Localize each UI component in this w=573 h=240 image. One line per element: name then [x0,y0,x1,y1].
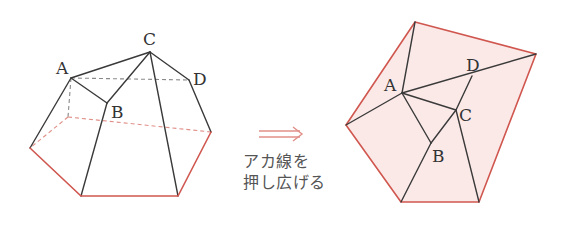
hidden-edge-a-d [71,78,189,80]
hidden-red-edge-back-left [30,117,68,148]
caption-line-2: 押し広げる [243,172,326,193]
solid-figure: A B C D [30,29,211,196]
net-label-c: C [459,105,472,125]
caption: アカ線を 押し広げる [243,151,326,193]
red-base-edges [30,132,211,196]
edge-c-d [150,52,189,80]
edge-a-b [71,78,107,103]
label-d: D [193,69,207,89]
edge-a-left [30,78,71,148]
caption-line-1: アカ線を [243,151,326,172]
double-arrow-right-icon [259,127,302,141]
net-outline [346,22,536,202]
edge-b-bottom-left [81,103,107,196]
net-label-d: D [466,55,480,75]
label-c: C [143,29,156,49]
label-a: A [55,58,69,78]
net-label-a: A [383,75,397,95]
hidden-edge-a-back [68,78,71,117]
hidden-red-edge-back-right [68,117,211,132]
edge-c-bottom-right [150,52,178,196]
net-label-b: B [432,146,445,166]
net-figure: A D C B [346,22,536,202]
label-b: B [111,102,124,122]
